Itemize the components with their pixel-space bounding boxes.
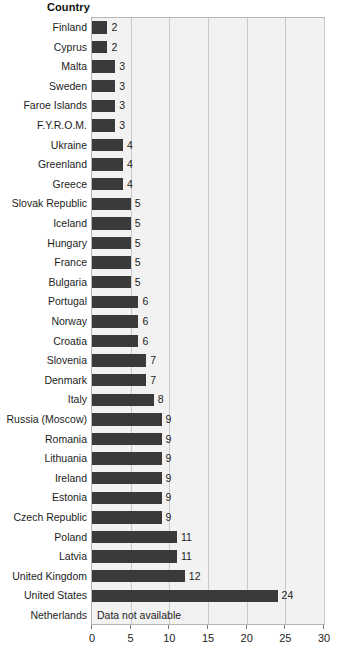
category-label: Russia (Moscow)	[6, 412, 87, 426]
bar-value-label: 9	[166, 471, 172, 485]
chart-row: F.Y.R.O.M.3	[0, 116, 338, 136]
tick-mark-30	[323, 625, 324, 629]
bar-value-label: 6	[142, 334, 148, 348]
bar	[92, 158, 123, 170]
chart-row: Norway6	[0, 312, 338, 332]
category-label: Netherlands	[30, 608, 87, 622]
chart-row: United States24	[0, 586, 338, 606]
bar	[92, 452, 162, 464]
chart-row: Greenland4	[0, 155, 338, 175]
chart-row: Latvia11	[0, 547, 338, 567]
chart-row: Estonia9	[0, 488, 338, 508]
chart-row: Slovak Republic5	[0, 194, 338, 214]
chart-row: NetherlandsData not available	[0, 606, 338, 626]
bar	[92, 296, 138, 308]
bar	[92, 531, 177, 543]
tick-label-30: 30	[318, 631, 330, 645]
chart-row: Romania9	[0, 430, 338, 450]
tick-label-10: 10	[163, 631, 175, 645]
category-label: Latvia	[59, 549, 87, 563]
category-label: Czech Republic	[13, 510, 87, 524]
category-label: Poland	[54, 530, 87, 544]
category-label: F.Y.R.O.M.	[37, 118, 87, 132]
bar-value-label: 2	[111, 20, 117, 34]
category-label: Iceland	[53, 216, 87, 230]
bar	[92, 60, 115, 72]
tick-mark-20	[246, 625, 247, 629]
bar	[92, 590, 278, 602]
chart-row: Cyprus2	[0, 38, 338, 58]
category-label: Portugal	[48, 294, 87, 308]
chart-row: France5	[0, 253, 338, 273]
tick-label-25: 25	[279, 631, 291, 645]
bar-value-label: 8	[158, 392, 164, 406]
tick-mark-15	[207, 625, 208, 629]
chart-row: Poland11	[0, 528, 338, 548]
bar	[92, 217, 131, 229]
chart-row: Ukraine4	[0, 136, 338, 156]
bar-value-label: 3	[119, 79, 125, 93]
bar-value-label: 5	[135, 275, 141, 289]
bar-value-label: 3	[119, 118, 125, 132]
bar-value-label: 5	[135, 196, 141, 210]
bar-value-label: 9	[166, 451, 172, 465]
bar-value-label: 9	[166, 510, 172, 524]
bar	[92, 413, 162, 425]
category-label: Slovak Republic	[12, 196, 87, 210]
bar	[92, 198, 131, 210]
chart-row: Hungary5	[0, 234, 338, 254]
bar-value-label: 5	[135, 216, 141, 230]
bar	[92, 394, 154, 406]
bar-value-label: 4	[127, 138, 133, 152]
chart-row: Slovenia7	[0, 351, 338, 371]
category-label: Ireland	[55, 471, 87, 485]
tick-mark-0	[91, 625, 92, 629]
category-label: Norway	[51, 314, 87, 328]
bar	[92, 237, 131, 249]
bar	[92, 119, 115, 131]
bar	[92, 41, 107, 53]
bar	[92, 511, 162, 523]
chart-row: Iceland5	[0, 214, 338, 234]
bar-chart: Country Finland2Cyprus2Malta3Sweden3Faro…	[0, 0, 338, 657]
chart-row: Lithuania9	[0, 449, 338, 469]
chart-row: United Kingdom12	[0, 567, 338, 587]
chart-row: Portugal6	[0, 292, 338, 312]
chart-row: Russia (Moscow)9	[0, 410, 338, 430]
category-label: United Kingdom	[12, 569, 87, 583]
category-label: Cyprus	[54, 40, 87, 54]
bar	[92, 433, 162, 445]
category-label: Ukraine	[51, 138, 87, 152]
bar-value-label: 5	[135, 255, 141, 269]
chart-row: Sweden3	[0, 77, 338, 97]
bar	[92, 80, 115, 92]
category-label: Estonia	[52, 490, 87, 504]
bar-value-label: 6	[142, 314, 148, 328]
category-label: Malta	[61, 59, 87, 73]
bar-rows: Finland2Cyprus2Malta3Sweden3Faroe Island…	[0, 0, 338, 657]
category-label: France	[54, 255, 87, 269]
bar	[92, 354, 146, 366]
tick-mark-10	[168, 625, 169, 629]
bar-value-label: 7	[150, 353, 156, 367]
bar-value-label: 9	[166, 490, 172, 504]
chart-row: Denmark7	[0, 371, 338, 391]
bar	[92, 374, 146, 386]
category-label: Bulgaria	[48, 275, 87, 289]
category-label: Italy	[68, 392, 87, 406]
category-label: Greece	[53, 177, 87, 191]
bar	[92, 550, 177, 562]
tick-label-5: 5	[128, 631, 134, 645]
bar	[92, 139, 123, 151]
category-label: Croatia	[53, 334, 87, 348]
bar-value-label: 24	[282, 588, 294, 602]
tick-label-20: 20	[241, 631, 253, 645]
bar	[92, 276, 131, 288]
category-label: Denmark	[44, 373, 87, 387]
bar-value-label: 11	[181, 549, 192, 563]
bar-value-label: 12	[189, 569, 201, 583]
category-label: Faroe Islands	[23, 98, 87, 112]
chart-row: Croatia6	[0, 332, 338, 352]
bar	[92, 335, 138, 347]
bar-value-label: 3	[119, 59, 125, 73]
